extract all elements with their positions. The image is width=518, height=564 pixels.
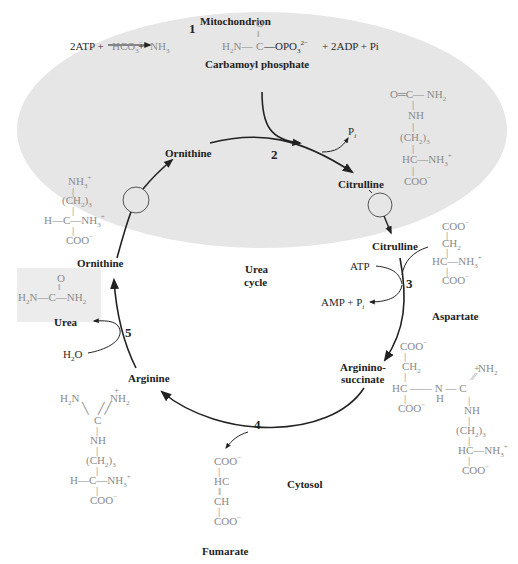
citrulline-structure: O═C— NH2 | NH | (CH2)3 | HC—NH3+ | COO− — [390, 88, 490, 198]
fumarate-structure: COO− | HC ‖ CH | COO− — [212, 455, 282, 540]
urea-structure: O ‖ H2N—C—NH2 — [18, 272, 102, 312]
step-1-number: 1 — [189, 22, 196, 35]
amp-pi-label: AMP + Pi — [321, 296, 364, 309]
reaction1-byproducts: + 2ADP + Pi — [322, 40, 379, 53]
carbamoyl-phosphate-label: Carbamoyl phosphate — [205, 58, 309, 71]
fumarate-label: Fumarate — [202, 545, 248, 558]
carbamoyl-double-bond: ‖ — [257, 28, 260, 41]
argininosuccinate-structure: COO− | CH2 | HC —— N — C H | COO− ⁺ ⁄⁄ N… — [392, 340, 518, 500]
urea-cycle-title-1: Urea — [245, 263, 268, 276]
ornithine-mito-label: Ornithine — [165, 147, 211, 160]
aspartate-structure: COO− | CH2 | HC—NH3+ | COO− — [432, 220, 512, 300]
h2o-label: H2O — [63, 348, 82, 361]
carbamoyl-opo3: —OPO32− — [264, 40, 308, 53]
step-3-number: 3 — [406, 277, 413, 290]
step-4-number: 4 — [254, 418, 261, 431]
pi-label: Pi — [348, 125, 356, 138]
reactant-ammonia: NH3 — [150, 40, 169, 53]
aspartate-label: Aspartate — [432, 310, 478, 323]
urea-cycle-title-2: cycle — [244, 276, 267, 289]
argininosuccinate-label-2: succinate — [341, 373, 384, 386]
atp-label: ATP — [350, 260, 370, 273]
reactant-atp: 2ATP + — [70, 40, 104, 53]
urea-label: Urea — [54, 316, 77, 329]
carbamoyl-c: C — [256, 40, 263, 53]
atp-in-arrow — [376, 266, 402, 284]
h2o-in-arrow — [88, 330, 120, 353]
step-5-number: 5 — [125, 326, 132, 339]
ornithine-cyto-label: Ornithine — [77, 257, 123, 270]
carbamoyl-h2n: H2N— — [222, 40, 252, 53]
step5-arc — [114, 280, 136, 368]
step4-arc — [162, 388, 364, 428]
plus-sign: + — [138, 40, 144, 53]
amp-out-arrow — [370, 285, 402, 302]
urea-out-arrow — [94, 321, 120, 330]
citrulline-mito-label: Citrulline — [338, 178, 384, 191]
cytosol-label: Cytosol — [287, 478, 322, 491]
fumarate-release-arrow — [226, 432, 248, 448]
arginine-structure: H2N + NH2 ╲ ╱╱ C | NH | (CH2)3 | H—C—NH3… — [60, 382, 170, 502]
ornithine-structure: NH3+ | (CH2)3 | H—C—NH3+ | COO− — [44, 175, 134, 260]
citrulline-cyto-label: Citrulline — [372, 240, 418, 253]
step-2-number: 2 — [271, 148, 278, 161]
